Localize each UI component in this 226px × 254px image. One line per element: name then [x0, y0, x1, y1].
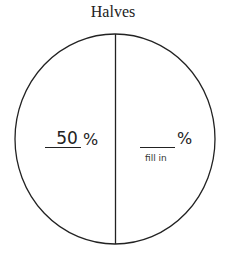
halves-circle	[0, 0, 226, 254]
left-half-value: 50	[52, 128, 82, 148]
left-half-percent-sign: %	[83, 130, 98, 149]
fill-in-hint: fill in	[145, 153, 167, 163]
right-half-percent-sign: %	[177, 129, 192, 148]
